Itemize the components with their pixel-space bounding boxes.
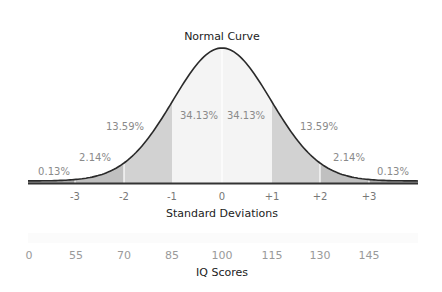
shaded-regions: [28, 40, 418, 185]
region-2-3-left: [75, 40, 124, 185]
iq-tick-130: 130: [310, 249, 331, 262]
iq-tick-115: 115: [262, 249, 283, 262]
x-axis-label: Standard Deviations: [166, 207, 278, 220]
sd-tick-plus1: +1: [265, 191, 280, 202]
pct-label-1-2-right: 13.59%: [300, 121, 338, 132]
iq-tick-70: 70: [117, 249, 131, 262]
region-tail-left: [28, 40, 75, 185]
normal-curve-chart: Normal Curve 34.13% 34.13% 13.59% 13.59%…: [0, 0, 442, 292]
sd-tick-plus3: +3: [362, 191, 377, 202]
sd-tick-0: 0: [219, 191, 225, 202]
iq-tick-100: 100: [212, 249, 233, 262]
sd-tick-minus3: -3: [70, 191, 80, 202]
sd-tick-plus2: +2: [313, 191, 328, 202]
iq-tick-145: 145: [359, 249, 380, 262]
region-tail-right: [369, 40, 418, 185]
pct-label-center-right: 34.13%: [227, 110, 265, 121]
pct-label-tail-right: 0.13%: [377, 166, 409, 177]
pct-label-center-left: 34.13%: [180, 110, 218, 121]
iq-tick-0: 0: [26, 249, 33, 262]
chart-title: Normal Curve: [184, 30, 260, 43]
iq-axis-label: IQ Scores: [196, 266, 248, 279]
iq-tick-85: 85: [165, 249, 179, 262]
pct-label-1-2-left: 13.59%: [106, 121, 144, 132]
pct-label-2-3-left: 2.14%: [79, 152, 111, 163]
sd-tick-minus1: -1: [167, 191, 177, 202]
iq-band: [28, 233, 418, 243]
iq-tick-55: 55: [69, 249, 83, 262]
pct-label-tail-left: 0.13%: [38, 166, 70, 177]
sd-tick-minus2: -2: [119, 191, 129, 202]
pct-label-2-3-right: 2.14%: [333, 152, 365, 163]
region-2-3-right: [320, 40, 369, 185]
